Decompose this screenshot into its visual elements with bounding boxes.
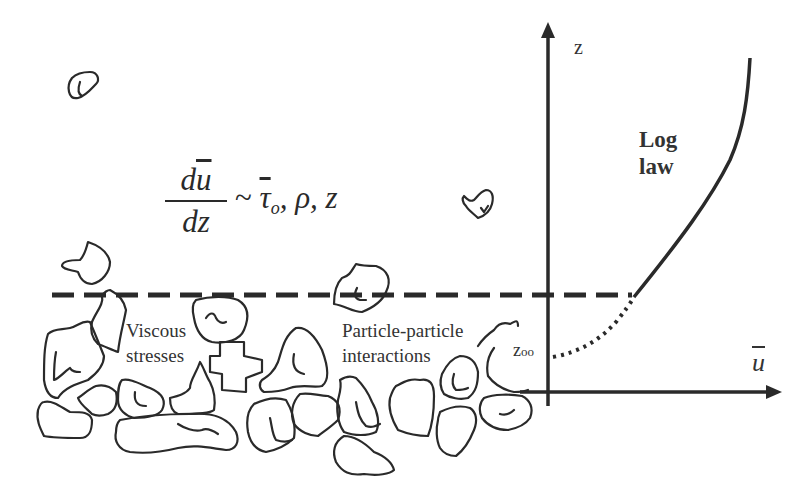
particle-above-line <box>62 242 110 284</box>
z-axis-arrow-icon <box>541 22 555 38</box>
floating-particle-small <box>69 72 98 98</box>
tau-symbol: τ <box>260 180 271 215</box>
viscous-label-line2: stresses <box>126 343 186 368</box>
boundary-layer-diagram <box>0 0 812 495</box>
equation-variables: , ρ, z <box>280 180 338 215</box>
log-law-label: Log law <box>639 126 677 180</box>
fraction-bar <box>165 200 227 202</box>
derivative-fraction: du dz <box>165 162 227 240</box>
particle-interactions-label: Particle-particle interactions <box>342 318 463 368</box>
log-law-label-line1: Log <box>639 126 677 153</box>
tau-subscript: o <box>271 198 280 218</box>
numerator: du <box>165 162 227 198</box>
denominator: dz <box>165 204 227 240</box>
log-law-label-line2: law <box>639 153 677 180</box>
u-axis-label: u <box>752 348 765 378</box>
particle-crossing-line <box>334 264 389 312</box>
near-bed-dotted-curve <box>553 297 634 357</box>
axes <box>520 22 782 406</box>
particle-label-line2: interactions <box>342 343 463 368</box>
viscous-stresses-label: Viscous stresses <box>126 318 186 368</box>
roughness-length-label: zoo <box>513 340 534 361</box>
viscous-label-line1: Viscous <box>126 318 186 343</box>
u-axis-arrow-icon <box>766 385 782 399</box>
z-axis-label: z <box>574 36 583 59</box>
equation-rhs: ~ τo, ρ, z <box>235 180 338 219</box>
particle-label-line1: Particle-particle <box>342 318 463 343</box>
relation-symbol: ~ <box>235 180 252 215</box>
floating-particle-right <box>463 190 493 218</box>
